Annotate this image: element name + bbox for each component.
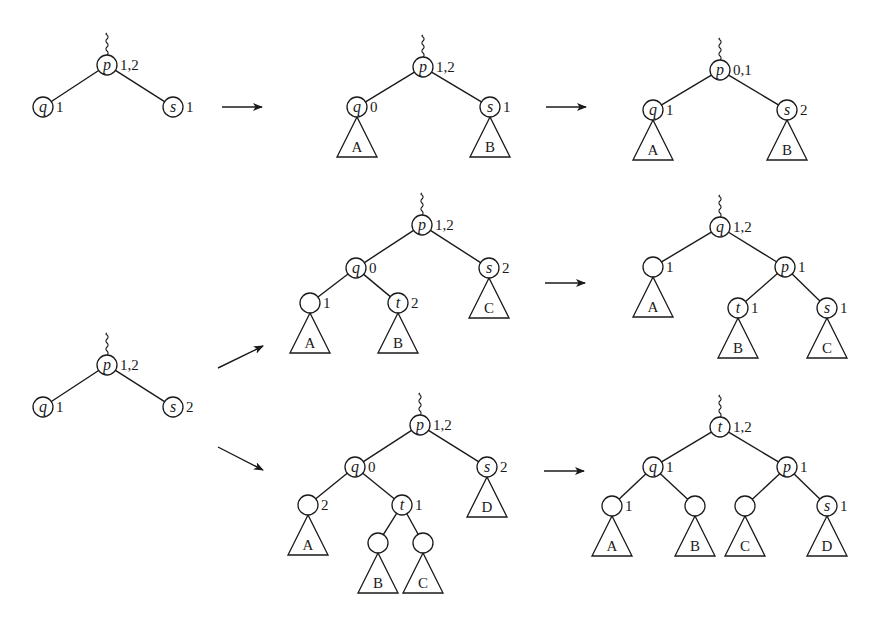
node-label: s — [484, 458, 490, 475]
tree-edge — [792, 274, 820, 301]
node-label: p — [418, 58, 427, 76]
node-label: p — [102, 56, 111, 74]
node-label: p — [102, 356, 111, 374]
balance-factor-label: 1,2 — [436, 59, 455, 75]
avl-diagram-canvas: p1,2q1s1ABp1,2q0s1ABp0,1q1s2p1,2q1s2ABCp… — [0, 0, 879, 629]
subtree-label: D — [822, 538, 833, 554]
tree-edge — [746, 274, 778, 302]
parent-link-squiggle-icon — [106, 33, 108, 55]
balance-factor-label: 1 — [625, 498, 633, 514]
subtree-label: C — [822, 340, 832, 356]
parent-link-squiggle-icon — [719, 38, 721, 60]
balance-factor-label: 1,2 — [120, 57, 139, 73]
tree-edge — [729, 432, 779, 462]
tree-edge — [115, 370, 164, 401]
tree-edge — [363, 473, 394, 498]
balance-factor-label: 1 — [800, 459, 808, 475]
balance-factor-label: 2 — [186, 399, 194, 415]
balance-factor-label: 1,2 — [435, 217, 454, 233]
node-label: q — [649, 458, 657, 476]
balance-factor-label: 1 — [56, 399, 64, 415]
tree-edge — [316, 473, 347, 498]
tree-edge — [794, 474, 820, 499]
tree-edge — [366, 72, 415, 102]
tree-edge — [51, 370, 98, 401]
subtree-label: A — [305, 335, 316, 351]
balance-factor-label: 1 — [56, 99, 64, 115]
node-label: t — [400, 496, 405, 513]
subtree-label: B — [690, 538, 700, 554]
tree-panel-row1-start: p1,2q1s1 — [33, 33, 194, 117]
balance-factor-label: 1,2 — [433, 417, 452, 433]
node-label: s — [170, 98, 176, 115]
node-label: s — [486, 259, 492, 276]
subtree-label: D — [482, 499, 493, 515]
balance-factor-label: 2 — [800, 102, 808, 118]
subtree-label: A — [352, 139, 363, 155]
tree-edge — [729, 75, 779, 105]
node-label: p — [415, 416, 424, 434]
tree-edge — [364, 274, 391, 296]
tree-node-unlabeled — [413, 533, 433, 553]
tree-panel-row2-case2-mid: ABCDp1,2q0s22t1 — [288, 393, 508, 593]
subtree-label: A — [303, 537, 314, 553]
balance-factor-label: 1,2 — [120, 357, 139, 373]
node-label: q — [351, 458, 359, 476]
balance-factor-label: 1 — [666, 102, 674, 118]
tree-node-unlabeled — [298, 495, 318, 515]
parent-link-squiggle-icon — [719, 195, 721, 217]
tree-edge — [428, 430, 478, 461]
parent-link-squiggle-icon — [422, 35, 424, 57]
node-label: q — [39, 98, 47, 116]
tree-edge — [662, 75, 712, 105]
balance-factor-label: 1 — [503, 99, 511, 115]
subtree-label: C — [484, 300, 494, 316]
node-label: p — [417, 216, 426, 234]
node-label: q — [649, 101, 657, 119]
tree-node-unlabeled — [643, 257, 663, 277]
balance-factor-label: 2 — [411, 295, 419, 311]
node-label: s — [487, 98, 493, 115]
node-label: t — [736, 299, 741, 316]
transition-arrow-icon — [218, 346, 263, 368]
balance-factor-label: 1 — [323, 295, 331, 311]
tree-edge — [660, 474, 687, 499]
tree-edge — [383, 513, 396, 534]
subtree-label: A — [607, 538, 618, 554]
subtree-label: A — [648, 299, 659, 315]
balance-factor-label: 0,1 — [733, 62, 752, 78]
tree-panel-row1-end: ABp0,1q1s2 — [633, 38, 808, 160]
tree-node-unlabeled — [602, 496, 622, 516]
node-label: q — [716, 218, 724, 236]
tree-edge — [407, 514, 418, 534]
parent-link-squiggle-icon — [719, 395, 721, 417]
node-label: q — [39, 398, 47, 416]
tree-panel-row2-start: p1,2q1s2 — [33, 333, 194, 417]
balance-factor-label: 2 — [321, 497, 329, 513]
tree-panel-row1-mid: ABp1,2q0s1 — [337, 35, 511, 157]
node-label: p — [780, 258, 789, 276]
balance-factor-label: 1 — [840, 498, 848, 514]
parent-link-squiggle-icon — [106, 333, 108, 355]
balance-factor-label: 1 — [751, 300, 759, 316]
node-label: p — [782, 458, 791, 476]
node-label: t — [396, 294, 401, 311]
tree-node-unlabeled — [300, 293, 320, 313]
subtree-label: B — [485, 139, 495, 155]
balance-factor-label: 1,2 — [733, 419, 752, 435]
balance-factor-label: 2 — [500, 459, 508, 475]
tree-edge — [363, 430, 411, 461]
subtree-label: B — [782, 142, 792, 158]
tree-edge — [115, 70, 164, 101]
tree-edge — [364, 230, 413, 262]
balance-factor-label: 1,2 — [733, 219, 752, 235]
subtree-label: B — [733, 340, 743, 356]
node-label: p — [715, 61, 724, 79]
balance-factor-label: 1 — [840, 300, 848, 316]
tree-panel-row2-case2-end: ABCDt1,2q1p11s1 — [592, 395, 848, 556]
node-label: s — [824, 497, 830, 514]
balance-factor-label: 1 — [666, 259, 674, 275]
tree-edge — [318, 274, 348, 297]
balance-factor-label: 1 — [415, 497, 423, 513]
balance-factor-label: 1 — [186, 99, 194, 115]
